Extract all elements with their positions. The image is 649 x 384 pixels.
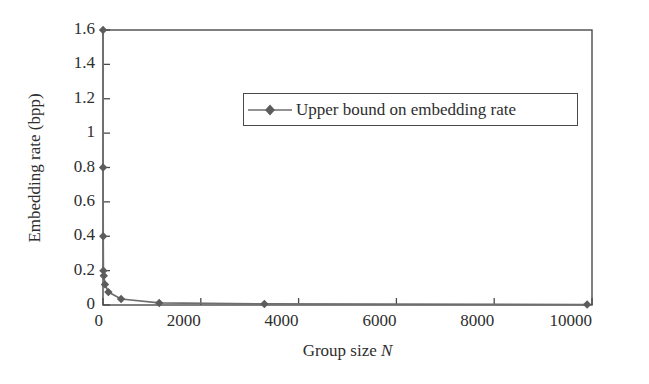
x-axis-label-prefix: Group size (303, 341, 381, 360)
y-tick-label: 0.6 (74, 191, 95, 211)
data-point-marker (99, 163, 107, 171)
y-axis-label: Embedding rate (bpp) (25, 93, 44, 242)
data-point-marker (101, 280, 109, 288)
legend: Upper bound on embedding rate (243, 93, 578, 126)
data-series-group (99, 26, 591, 309)
plot-frame (103, 30, 592, 305)
y-tick-label: 1.6 (74, 19, 95, 39)
legend-label: Upper bound on embedding rate (296, 100, 516, 120)
data-point-marker (100, 272, 108, 280)
data-point-marker (583, 300, 591, 308)
y-tick-label: 0.4 (74, 225, 95, 245)
data-point-marker (99, 232, 107, 240)
data-point-marker (99, 26, 107, 34)
y-tick-label: 0.8 (74, 157, 95, 177)
legend-marker-icon (244, 100, 296, 120)
y-tick-label: 1.4 (74, 53, 95, 73)
chart-figure: Embedding rate (bpp) 00.20.40.60.811.21.… (0, 0, 649, 384)
axes-group (103, 30, 592, 305)
data-point-marker (155, 299, 163, 307)
series-line (103, 30, 587, 304)
data-point-marker (117, 295, 125, 303)
x-axis-label: Group size N (303, 341, 393, 361)
y-tick-label: 0.2 (74, 260, 95, 280)
y-axis-label-group: Embedding rate (bpp) (25, 93, 44, 242)
data-point-marker (260, 300, 268, 308)
axis-ticks-group (103, 30, 592, 305)
x-axis-label-symbol: N (381, 341, 392, 360)
y-tick-label: 1.2 (74, 88, 95, 108)
y-tick-label: 1 (87, 122, 96, 142)
data-point-marker (104, 288, 112, 296)
